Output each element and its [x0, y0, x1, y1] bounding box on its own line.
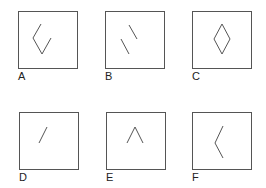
panel-e	[106, 112, 166, 170]
figure-d-icon	[19, 112, 79, 170]
panel-c	[192, 11, 252, 69]
panel-d-label: D	[19, 172, 27, 183]
panel-f	[192, 112, 252, 170]
panel-e-label: E	[106, 172, 113, 183]
figure-b-icon	[105, 11, 165, 69]
panel-b-label: B	[105, 71, 112, 82]
panel-c-label: C	[192, 71, 200, 82]
panel-a	[18, 11, 78, 69]
panel-b	[105, 11, 165, 69]
figure-e-icon	[106, 112, 166, 170]
panel-f-label: F	[192, 172, 199, 183]
figure-a-icon	[18, 11, 78, 69]
figure-f-icon	[192, 112, 252, 170]
figure-c-icon	[192, 11, 252, 69]
panel-d	[19, 112, 79, 170]
panel-a-label: A	[18, 71, 25, 82]
